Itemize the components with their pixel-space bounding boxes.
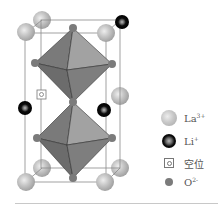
legend-item-li: Li+ [160, 131, 199, 151]
crystal-structure-diagram [0, 0, 150, 200]
legend-item-la: La3+ [160, 108, 205, 128]
legend-label-la: La [184, 113, 197, 124]
legend-label-o: O [184, 177, 192, 188]
divider [15, 203, 218, 204]
legend-item-o: O2- [160, 172, 198, 192]
legend-charge-la: 3+ [197, 112, 206, 119]
legend-charge-o: 2- [192, 176, 198, 183]
la-ion-icon [161, 110, 177, 126]
legend-item-vacancy: 空位 [160, 153, 204, 173]
vacancy-site [37, 90, 46, 99]
legend-label-li: Li [184, 136, 194, 147]
vacancy-icon [164, 158, 174, 168]
legend-charge-li: + [194, 135, 199, 142]
o-ion-icon [165, 178, 173, 186]
li-ion-icon [162, 134, 176, 148]
legend-label-vacancy: 空位 [184, 156, 204, 171]
